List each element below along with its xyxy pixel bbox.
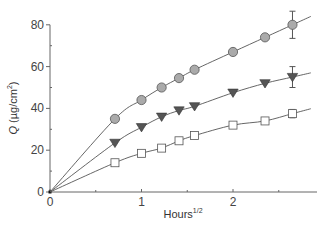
square-marker (138, 149, 146, 157)
circle-marker (228, 47, 237, 56)
square-marker (288, 110, 296, 118)
triangle-marker (228, 89, 238, 97)
circle-marker (137, 95, 146, 104)
circle-marker (110, 114, 119, 123)
circle-marker (190, 65, 199, 74)
y-tick-label: 20 (31, 143, 45, 157)
circle-marker (174, 73, 183, 82)
circle-marker (157, 83, 166, 92)
chart: 020406080 012 Hours1/2 Q (µg/cm2) (0, 0, 324, 226)
y-axis: 020406080 (31, 18, 52, 199)
square-marker (229, 121, 237, 129)
square-marker (111, 159, 119, 167)
triangle-marker (110, 139, 120, 147)
y-tick-label: 80 (31, 18, 45, 32)
fit-curves (50, 16, 311, 192)
x-tick-label: 2 (230, 195, 237, 209)
circle-marker (260, 33, 269, 42)
data-markers (110, 20, 298, 167)
y-tick-label: 40 (31, 101, 45, 115)
x-tick-label: 1 (138, 195, 145, 209)
fit-curve-circles (50, 16, 311, 192)
triangle-marker (174, 107, 184, 115)
circle-marker (288, 20, 297, 29)
square-marker (175, 137, 183, 145)
square-marker (261, 117, 269, 125)
triangle-marker (189, 103, 199, 111)
y-tick-label: 60 (31, 60, 45, 74)
x-axis: 012 (47, 189, 317, 209)
y-axis-title: Q (µg/cm2) (6, 81, 19, 134)
triangle-marker (136, 124, 146, 132)
x-tick-label: 0 (47, 195, 54, 209)
square-marker (158, 144, 166, 152)
triangle-marker (156, 113, 166, 121)
y-tick-label: 0 (37, 185, 44, 199)
fit-curve-squares (50, 109, 311, 192)
x-axis-title: Hours1/2 (163, 207, 202, 220)
square-marker (191, 132, 199, 140)
